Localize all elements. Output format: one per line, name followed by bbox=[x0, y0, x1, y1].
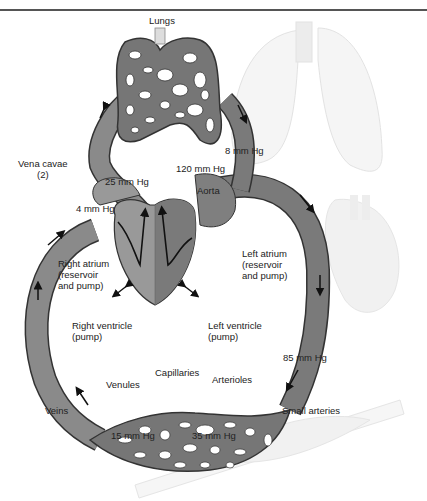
label-small-arteries: Small arteries bbox=[282, 405, 340, 416]
label-vena-cavae: Vena cavae bbox=[18, 158, 68, 169]
label-pressure-8: 8 mm Hg bbox=[225, 145, 264, 156]
circulation-diagram bbox=[0, 0, 427, 501]
trachea bbox=[155, 28, 165, 44]
label-vena-cavae-count: (2) bbox=[37, 169, 49, 180]
label-pressure-35: 35 mm Hg bbox=[192, 430, 236, 441]
label-pressure-120: 120 mm Hg bbox=[176, 163, 225, 174]
label-aorta: Aorta bbox=[197, 185, 220, 196]
label-right-atrium: Right atrium(reservoirand pump) bbox=[58, 258, 109, 291]
label-pressure-4: 4 mm Hg bbox=[76, 203, 115, 214]
label-pressure-15: 15 mm Hg bbox=[111, 430, 155, 441]
label-pressure-25: 25 mm Hg bbox=[105, 176, 149, 187]
lungs-network bbox=[117, 28, 222, 144]
label-lungs: Lungs bbox=[149, 15, 175, 26]
label-veins: Veins bbox=[45, 405, 68, 416]
label-venules: Venules bbox=[106, 379, 140, 390]
faded-heart-illustration bbox=[325, 195, 399, 312]
label-left-atrium: Left atrium(reservoirand pump) bbox=[242, 248, 287, 281]
label-arterioles: Arterioles bbox=[212, 374, 252, 385]
label-left-ventricle: Left ventricle(pump) bbox=[208, 320, 262, 342]
label-right-ventricle: Right ventricle(pump) bbox=[72, 320, 132, 342]
label-pressure-85: 85 mm Hg bbox=[283, 352, 327, 363]
label-capillaries: Capillaries bbox=[155, 367, 199, 378]
